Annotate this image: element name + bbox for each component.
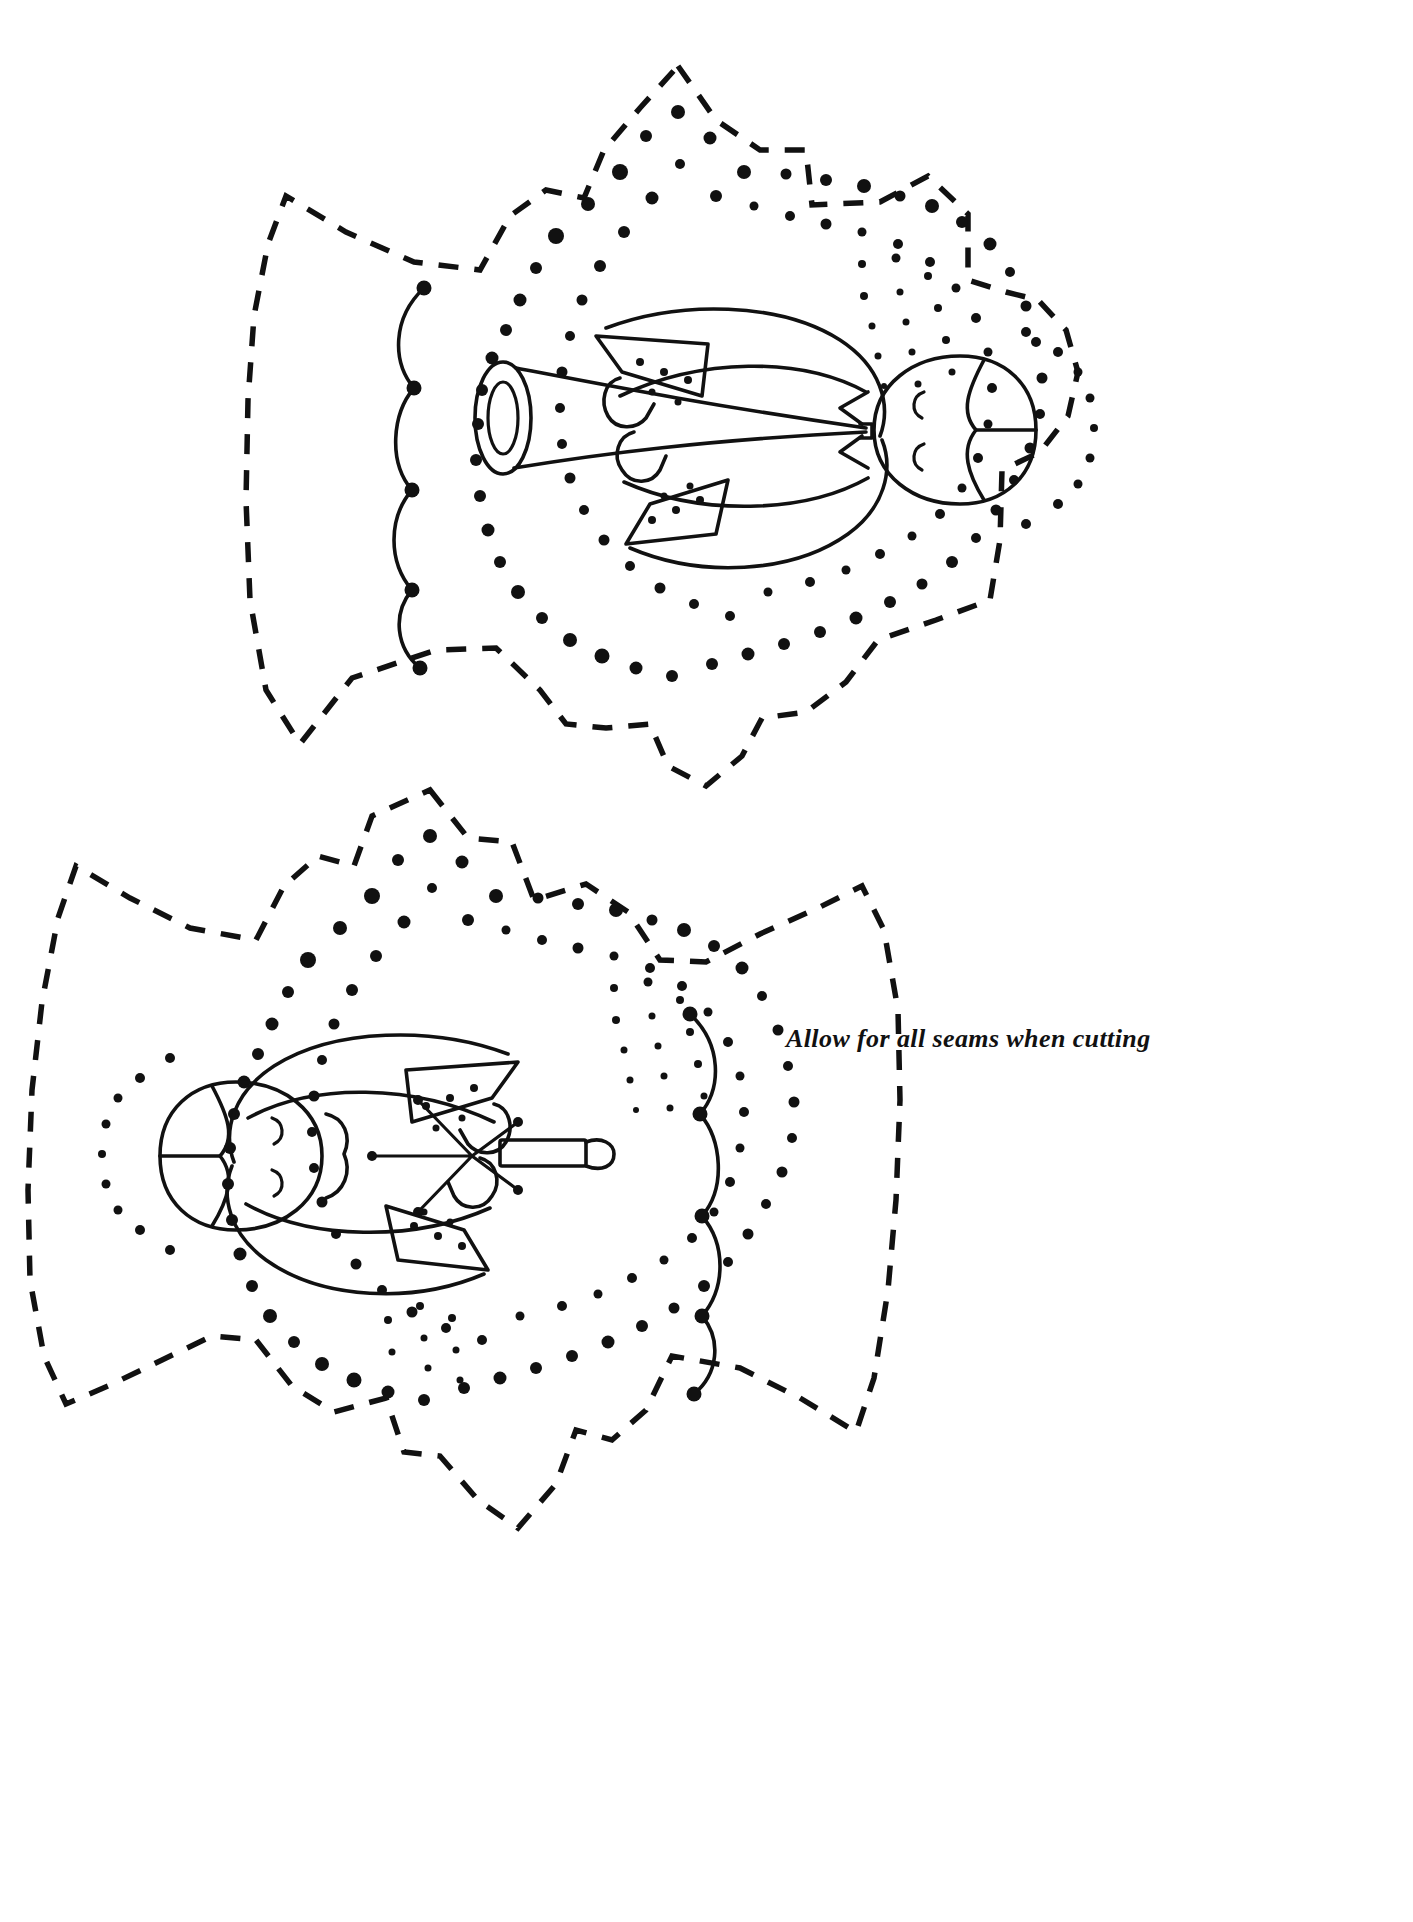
dotted-inner-ring-top bbox=[555, 159, 997, 621]
figure-angel-top bbox=[246, 66, 1098, 786]
sleeve-upper-bottom bbox=[406, 1062, 518, 1122]
head-bottom bbox=[160, 1082, 322, 1230]
closed-eye-upper-top bbox=[914, 392, 924, 418]
dotted-stitch-border-bottom bbox=[222, 829, 800, 1406]
scallop-nodes-top bbox=[405, 281, 432, 676]
robe-lower-top bbox=[630, 440, 887, 568]
seam-allowance-caption: Allow for all seams when cutting bbox=[786, 1024, 1151, 1054]
scalloped-wing-edge-top bbox=[394, 288, 424, 668]
dot-cluster-bottom-lower bbox=[384, 1302, 464, 1384]
candle-bar-bottom bbox=[500, 1140, 614, 1168]
arm-lower-top bbox=[617, 432, 666, 481]
collar-bottom bbox=[326, 1114, 347, 1198]
scalloped-wing-edge-bottom bbox=[690, 1014, 720, 1394]
figure-angel-bottom bbox=[28, 790, 900, 1528]
halo-dots-bottom bbox=[98, 1053, 175, 1255]
trumpet-top bbox=[475, 362, 872, 474]
dashed-cut-outline-top bbox=[246, 66, 1078, 786]
dotted-inner-ring-bottom bbox=[307, 883, 749, 1345]
halo-dots-top bbox=[1021, 327, 1098, 529]
collar-top bbox=[840, 392, 868, 468]
closed-eye-upper-bottom bbox=[272, 1118, 282, 1144]
pattern-sheet: .cut{fill:none;stroke:#111;stroke-width:… bbox=[0, 0, 1413, 1922]
closed-eye-lower-bottom bbox=[272, 1170, 282, 1196]
closed-eye-lower-top bbox=[914, 444, 924, 470]
dot-cluster-bottom-left bbox=[610, 978, 708, 1114]
arm-lower-bottom bbox=[448, 1158, 497, 1207]
pattern-drawing: .cut{fill:none;stroke:#111;stroke-width:… bbox=[0, 0, 1413, 1922]
